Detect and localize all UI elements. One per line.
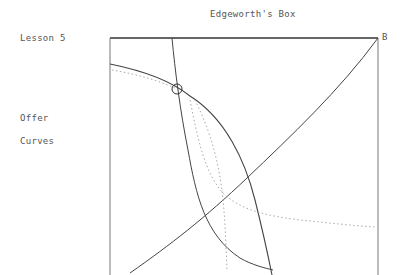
offer-curve-b — [172, 38, 273, 270]
offer-curve-a — [110, 64, 272, 275]
contract-curve — [130, 38, 378, 273]
dotted-curve-vertical — [195, 100, 227, 270]
dotted-curve-right — [190, 100, 376, 227]
edgeworth-box-diagram — [0, 0, 407, 275]
